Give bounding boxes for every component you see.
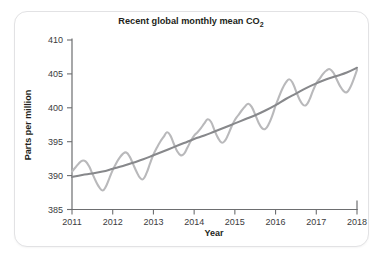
trend-line xyxy=(72,68,357,177)
co2-line-chart: Recent global monthly mean CO2 Parts per… xyxy=(0,0,381,267)
y-axis-ticks: 385390395400405410 xyxy=(48,35,72,215)
x-tick-label: 2014 xyxy=(184,217,204,227)
x-tick-label: 2011 xyxy=(62,217,81,227)
x-axis-title: Year xyxy=(204,228,224,238)
x-tick-label: 2012 xyxy=(103,217,123,227)
x-axis-title-group: Year xyxy=(204,228,224,238)
y-tick-label: 395 xyxy=(48,137,63,147)
axis-lines xyxy=(72,39,357,210)
y-axis-title-group: Parts per million xyxy=(23,90,33,161)
seasonal-cycle-line xyxy=(72,69,357,191)
chart-title: Recent global monthly mean CO2 xyxy=(118,16,263,28)
y-tick-label: 385 xyxy=(48,205,63,215)
chart-title-group: Recent global monthly mean CO2 xyxy=(118,16,263,28)
y-axis-title: Parts per million xyxy=(23,90,33,161)
x-tick-label: 2015 xyxy=(225,217,245,227)
x-tick-label: 2013 xyxy=(143,217,163,227)
x-tick-label: 2017 xyxy=(306,217,326,227)
x-tick-label: 2016 xyxy=(266,217,286,227)
x-axis-ticks: 20112012201320142015201620172018 xyxy=(62,210,367,228)
y-tick-label: 405 xyxy=(48,69,63,79)
x-tick-label: 2018 xyxy=(347,217,367,227)
y-tick-label: 390 xyxy=(48,171,63,181)
y-tick-label: 410 xyxy=(48,35,63,45)
y-tick-label: 400 xyxy=(48,103,63,113)
